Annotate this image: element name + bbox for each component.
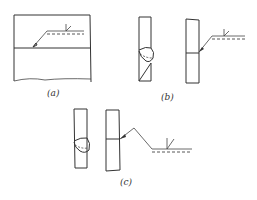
part-b-bar-with-weld bbox=[139, 17, 154, 81]
plate-break-line bbox=[14, 79, 91, 81]
leader-line bbox=[33, 31, 84, 47]
leader-line bbox=[199, 36, 245, 52]
arrowhead bbox=[199, 47, 204, 52]
arrowhead bbox=[33, 43, 37, 47]
weld-symbol bbox=[66, 24, 71, 31]
arrowhead bbox=[120, 134, 126, 139]
part-c-label: (c) bbox=[120, 177, 132, 187]
part-b-label: (b) bbox=[161, 92, 174, 102]
broken-leader-line bbox=[120, 128, 192, 149]
part-b-bar-with-symbol bbox=[186, 19, 245, 83]
part-a-drawing bbox=[14, 15, 91, 82]
part-c-bar-with-weld bbox=[74, 109, 90, 168]
weld-symbol bbox=[224, 29, 229, 36]
bar-outline bbox=[106, 110, 120, 171]
weld-symbol bbox=[167, 138, 174, 149]
bar-outline bbox=[186, 19, 199, 83]
part-a-label: (a) bbox=[47, 88, 59, 98]
part-c-bar-with-symbol bbox=[106, 110, 192, 171]
welding-symbol-diagram bbox=[0, 0, 257, 200]
